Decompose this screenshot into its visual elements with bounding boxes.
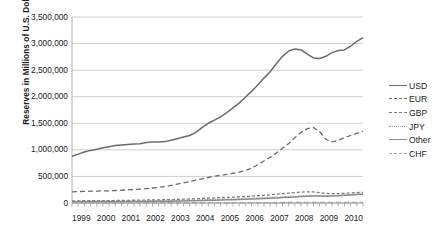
legend-item-other[interactable]: Other [389, 133, 441, 147]
legend-label: GBP [409, 108, 427, 118]
currency-reserves-line-chart: Reserves in Millions of U.S. Dollars 3,5… [0, 0, 442, 246]
legend-label: JPY [409, 122, 425, 132]
legend-line-swatch-jpy-icon [389, 123, 407, 131]
x-axis-tick-labels: 1999200020012002200320042005200620072008… [0, 0, 442, 246]
x-tick-label: 2010 [340, 213, 368, 223]
legend-label: USD [409, 81, 427, 91]
legend-label: EUR [409, 94, 427, 104]
legend-label: CHF [409, 149, 427, 159]
legend-line-swatch-other-icon [389, 136, 407, 144]
legend-item-eur[interactable]: EUR [389, 93, 441, 107]
legend-line-swatch-usd-icon [389, 82, 407, 90]
legend-item-gbp[interactable]: GBP [389, 106, 441, 120]
legend-label: Other [409, 135, 431, 145]
legend-line-swatch-gbp-icon [389, 109, 407, 117]
legend-item-chf[interactable]: CHF [389, 147, 441, 161]
legend-item-jpy[interactable]: JPY [389, 120, 441, 134]
legend-item-usd[interactable]: USD [389, 79, 441, 93]
legend-line-swatch-eur-icon [389, 95, 407, 103]
chart-legend: USDEURGBPJPYOtherCHF [389, 79, 441, 161]
legend-line-swatch-chf-icon [389, 150, 407, 158]
